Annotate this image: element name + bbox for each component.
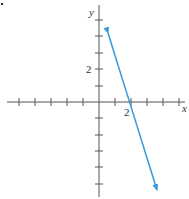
y-axis-label: y <box>88 6 94 18</box>
x-tick-label-2: 2 <box>124 106 130 118</box>
x-axis-label: x <box>181 102 187 114</box>
corner-mark <box>1 3 3 5</box>
y-tick-label-2: 2 <box>86 63 92 75</box>
data-line <box>108 33 157 190</box>
chart: y x 2 2 <box>0 0 189 199</box>
